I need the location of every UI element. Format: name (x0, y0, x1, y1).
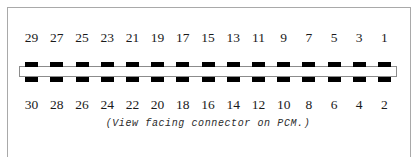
pin-number-9: 9 (271, 29, 296, 47)
pin-tab-cell-1 (372, 62, 397, 67)
pin-tab-10 (277, 77, 290, 82)
pin-tab-cell-18 (170, 77, 195, 82)
pin-tab-22 (126, 77, 139, 82)
pin-tab-7 (302, 62, 315, 67)
pin-tab-cell-19 (145, 62, 170, 67)
pin-tab-23 (101, 62, 114, 67)
pin-tab-19 (151, 62, 164, 67)
pin-number-4: 4 (347, 96, 372, 114)
pin-number-12: 12 (246, 96, 271, 114)
pin-tab-cell-16 (195, 77, 220, 82)
pin-tab-16 (202, 77, 215, 82)
pin-number-26: 26 (69, 96, 94, 114)
pin-number-25: 25 (69, 29, 94, 47)
pin-tab-cell-5 (321, 62, 346, 67)
pin-tab-cell-14 (221, 77, 246, 82)
pin-number-24: 24 (95, 96, 120, 114)
pin-tab-8 (302, 77, 315, 82)
pin-number-10: 10 (271, 96, 296, 114)
pin-number-row-bottom: 30282624222018161412108642 (19, 96, 397, 114)
pin-tab-29 (25, 62, 38, 67)
pin-tab-cell-3 (347, 62, 372, 67)
pin-tab-cell-22 (120, 77, 145, 82)
pin-tab-28 (50, 77, 63, 82)
pin-tab-24 (101, 77, 114, 82)
pin-tab-cell-23 (95, 62, 120, 67)
connector-pinout-diagram: 2927252321191715131197531 30282624222018… (19, 29, 397, 114)
pin-number-11: 11 (246, 29, 271, 47)
pin-tab-17 (176, 62, 189, 67)
pin-tab-12 (252, 77, 265, 82)
connector-body (19, 59, 397, 84)
pin-tab-27 (50, 62, 63, 67)
pin-number-30: 30 (19, 96, 44, 114)
pin-number-8: 8 (296, 96, 321, 114)
pin-number-18: 18 (170, 96, 195, 114)
pin-tab-cell-12 (246, 77, 271, 82)
pin-tab-3 (353, 62, 366, 67)
pin-tab-14 (227, 77, 240, 82)
pin-tab-9 (277, 62, 290, 67)
pin-tab-cell-30 (19, 77, 44, 82)
pin-number-17: 17 (170, 29, 195, 47)
pin-number-1: 1 (372, 29, 397, 47)
pin-tab-cell-26 (69, 77, 94, 82)
pin-tab-20 (151, 77, 164, 82)
pin-tab-25 (76, 62, 89, 67)
pin-tab-cell-24 (95, 77, 120, 82)
pin-tab-cell-8 (296, 77, 321, 82)
pin-tab-cell-7 (296, 62, 321, 67)
pin-tab-30 (25, 77, 38, 82)
pin-number-15: 15 (195, 29, 220, 47)
pin-tab-cell-10 (271, 77, 296, 82)
pin-tab-cell-2 (372, 77, 397, 82)
pin-number-19: 19 (145, 29, 170, 47)
pin-tab-cell-11 (246, 62, 271, 67)
pin-tab-15 (202, 62, 215, 67)
pin-number-5: 5 (321, 29, 346, 47)
pin-tab-cell-27 (44, 62, 69, 67)
pin-number-28: 28 (44, 96, 69, 114)
pin-tab-6 (328, 77, 341, 82)
pin-tab-5 (328, 62, 341, 67)
pin-tab-cell-15 (195, 62, 220, 67)
pin-number-3: 3 (347, 29, 372, 47)
diagram-caption: (View facing connector on PCM.) (19, 118, 397, 129)
pin-tab-2 (378, 77, 391, 82)
pin-number-6: 6 (321, 96, 346, 114)
pin-number-23: 23 (95, 29, 120, 47)
pin-number-2: 2 (372, 96, 397, 114)
pin-tab-cell-25 (69, 62, 94, 67)
connector-shell (19, 66, 397, 77)
pin-tab-row-top (19, 62, 397, 67)
pin-tab-11 (252, 62, 265, 67)
pin-tab-cell-28 (44, 77, 69, 82)
pin-number-27: 27 (44, 29, 69, 47)
pin-tab-13 (227, 62, 240, 67)
pin-tab-cell-21 (120, 62, 145, 67)
pin-number-14: 14 (221, 96, 246, 114)
pin-number-16: 16 (195, 96, 220, 114)
pin-tab-cell-20 (145, 77, 170, 82)
pin-tab-1 (378, 62, 391, 67)
pin-tab-cell-29 (19, 62, 44, 67)
pin-number-13: 13 (221, 29, 246, 47)
pin-tab-row-bottom (19, 77, 397, 82)
pin-tab-cell-13 (221, 62, 246, 67)
pin-number-7: 7 (296, 29, 321, 47)
pin-tab-18 (176, 77, 189, 82)
pin-tab-4 (353, 77, 366, 82)
pin-number-row-top: 2927252321191715131197531 (19, 29, 397, 47)
figure-frame: 2927252321191715131197531 30282624222018… (7, 7, 411, 147)
pin-number-21: 21 (120, 29, 145, 47)
pin-tab-cell-6 (321, 77, 346, 82)
pin-number-29: 29 (19, 29, 44, 47)
pin-tab-21 (126, 62, 139, 67)
pin-tab-26 (76, 77, 89, 82)
pin-number-20: 20 (145, 96, 170, 114)
pin-number-22: 22 (120, 96, 145, 114)
pin-tab-cell-17 (170, 62, 195, 67)
pin-tab-cell-9 (271, 62, 296, 67)
pin-tab-cell-4 (347, 77, 372, 82)
